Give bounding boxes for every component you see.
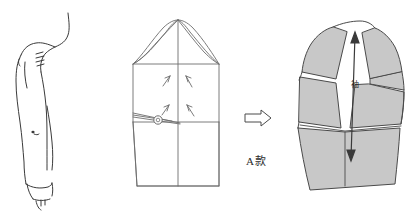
cap-wedge-upper-left — [302, 27, 347, 79]
cap-wedge-upper-right — [362, 28, 402, 79]
spread-pattern-pieces — [298, 27, 404, 190]
illustration-canvas: A款 袖 — [0, 0, 418, 220]
piece-name-label: 袖 — [351, 78, 359, 89]
outline-left-mid — [298, 122, 299, 128]
mid-panel-right — [350, 84, 404, 128]
mid-panel-left — [299, 77, 341, 128]
cap-top-curve — [333, 21, 375, 28]
lower-body-panel — [298, 128, 400, 190]
style-code-label: A款 — [246, 152, 267, 168]
sleeve-pattern-spread-panel — [0, 0, 418, 220]
grainline-head-top — [351, 32, 359, 43]
